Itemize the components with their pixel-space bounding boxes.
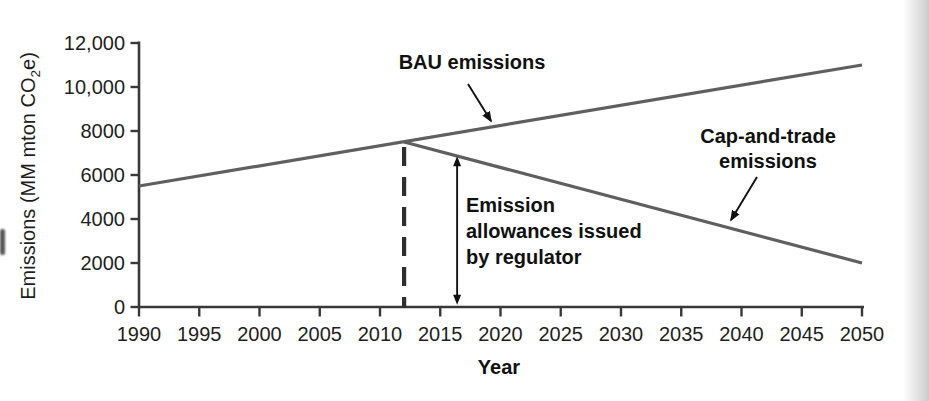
y-axis-title-text: Emissions (MM mton CO — [17, 78, 39, 300]
x-tick-label: 2040 — [719, 323, 764, 345]
y-tick-label: 6000 — [81, 164, 126, 186]
y-tick-label: 10,000 — [64, 76, 125, 98]
bau-emissions-line-label: BAU emissions — [399, 50, 546, 75]
x-tick-label: 2035 — [659, 323, 704, 345]
emission-allowances-annotation: Emissionallowances issuedby regulator — [466, 192, 642, 270]
annotation-line: allowances issued — [466, 218, 642, 244]
cap-label-arrow — [731, 177, 757, 220]
y-tick-label: 4000 — [81, 208, 126, 230]
x-tick-label: 2010 — [358, 323, 403, 345]
bau-label-arrow — [468, 84, 491, 121]
annotation-line: Emission — [466, 192, 642, 218]
x-tick-label: 2050 — [840, 323, 885, 345]
x-axis-title: Year — [478, 356, 520, 379]
annotation-line: Cap-and-trade — [700, 124, 836, 149]
x-tick-label: 2045 — [780, 323, 825, 345]
y-tick-label: 8000 — [81, 120, 126, 142]
x-tick-label: 2030 — [599, 323, 644, 345]
y-axis-title-text-end: e) — [17, 52, 39, 70]
y-axis-title: Emissions (MM mton CO2e) — [17, 52, 43, 300]
x-tick-label: 2000 — [237, 323, 282, 345]
cap-and-trade-emissions-line-label: Cap-and-tradeemissions — [700, 124, 836, 174]
y-axis-title-subscript: 2 — [28, 70, 43, 78]
x-tick-label: 1995 — [177, 323, 222, 345]
y-tick-label: 0 — [114, 296, 125, 318]
x-tick-label: 2025 — [539, 323, 584, 345]
x-tick-label: 2015 — [418, 323, 463, 345]
annotation-line: emissions — [700, 149, 836, 174]
y-tick-label: 2000 — [81, 252, 126, 274]
y-tick-label: 12,000 — [64, 32, 125, 54]
x-tick-label: 2020 — [478, 323, 523, 345]
emissions-chart-figure: 0200040006000800010,00012,00019901995200… — [0, 0, 929, 401]
x-tick-label: 2005 — [298, 323, 343, 345]
allowance-arrowhead-down — [453, 295, 461, 305]
scan-edge-artifact — [0, 229, 5, 255]
x-tick-label: 1990 — [117, 323, 162, 345]
annotation-line: by regulator — [466, 244, 642, 270]
